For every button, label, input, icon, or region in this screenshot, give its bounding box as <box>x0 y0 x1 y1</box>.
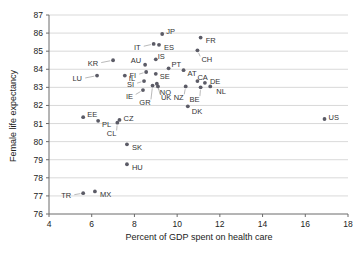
point-label: SI <box>127 80 134 89</box>
data-point: EE <box>81 110 97 119</box>
point-marker <box>323 117 327 121</box>
point-label: PT <box>172 60 182 69</box>
point-marker <box>156 85 160 89</box>
point-label: PL <box>102 120 111 129</box>
scatter-chart: Female life expectancy Percent of GDP sp… <box>0 0 363 257</box>
point-marker <box>125 162 129 166</box>
point-label: GR <box>139 98 151 107</box>
point-marker <box>196 48 200 52</box>
point-marker <box>95 74 99 78</box>
data-point: PT <box>167 60 182 70</box>
point-label: SE <box>160 72 170 81</box>
x-tick-label: 10 <box>172 219 182 229</box>
data-point: IS <box>154 52 165 61</box>
plot-area: 767778798081828384858687 4681012141618 J… <box>0 0 363 257</box>
point-label: JP <box>166 27 175 36</box>
point-marker <box>123 74 127 78</box>
point-marker <box>184 85 188 89</box>
y-tick-label: 80 <box>34 137 44 147</box>
point-marker <box>81 115 85 119</box>
point-label: UK <box>161 93 171 102</box>
x-tick-label: 16 <box>301 219 311 229</box>
x-tick-label: 12 <box>215 219 225 229</box>
point-label: KR <box>88 59 99 68</box>
point-marker <box>93 189 97 193</box>
point-label: AT <box>188 69 197 78</box>
point-marker <box>152 42 156 46</box>
point-label: CL <box>107 129 117 138</box>
point-marker <box>157 43 161 47</box>
point-label: HU <box>132 163 143 172</box>
data-point: AT <box>182 68 197 78</box>
x-tick-label: 18 <box>343 219 353 229</box>
data-point: KR <box>88 58 115 68</box>
y-tick-label: 78 <box>34 173 44 183</box>
y-tick-label: 82 <box>34 100 44 110</box>
x-axis-ticks: 4681012141618 <box>47 214 353 229</box>
y-tick-label: 76 <box>34 209 44 219</box>
data-point: CH <box>196 48 213 64</box>
x-tick-label: 8 <box>132 219 137 229</box>
data-point: MX <box>93 189 111 198</box>
y-tick-label: 77 <box>34 191 44 201</box>
gridlines <box>49 15 348 196</box>
point-label: DK <box>192 107 202 116</box>
point-label: IS <box>158 52 165 61</box>
point-label: LU <box>72 74 82 83</box>
point-marker <box>151 84 155 88</box>
point-label: MX <box>100 190 111 199</box>
point-label: NL <box>216 87 226 96</box>
point-marker <box>111 58 115 62</box>
y-tick-label: 85 <box>34 46 44 56</box>
data-points: JPFRITESCHISKRAUPTATFISELUILCADESINONLNZ… <box>61 27 339 200</box>
y-tick-label: 79 <box>34 155 44 165</box>
point-marker <box>142 79 146 83</box>
data-point: FR <box>199 36 216 46</box>
point-marker <box>167 66 171 70</box>
data-point: HU <box>125 162 143 172</box>
data-point: LU <box>72 74 98 84</box>
y-axis-ticks: 767778798081828384858687 <box>34 10 49 219</box>
point-label: NZ <box>174 93 184 102</box>
point-label: BE <box>190 95 200 104</box>
y-tick-label: 83 <box>34 82 44 92</box>
data-point: JP <box>160 27 175 36</box>
point-label: EE <box>87 110 97 119</box>
point-label: IE <box>126 92 133 101</box>
x-tick-label: 4 <box>47 219 52 229</box>
x-tick-label: 6 <box>89 219 94 229</box>
point-marker <box>125 142 129 146</box>
data-point: IT <box>134 42 156 52</box>
point-label: CZ <box>123 114 133 123</box>
point-marker <box>182 68 186 72</box>
data-point: SK <box>125 142 142 151</box>
data-point: US <box>323 113 339 122</box>
data-point: BE <box>190 85 203 104</box>
point-marker <box>154 72 158 76</box>
data-point: DK <box>186 104 202 116</box>
point-label: ES <box>164 43 174 52</box>
point-marker <box>203 81 207 85</box>
point-marker <box>160 32 164 36</box>
data-point: PL <box>96 119 111 130</box>
y-tick-label: 87 <box>34 10 44 20</box>
point-marker <box>143 63 147 67</box>
point-marker <box>199 85 203 89</box>
point-marker <box>141 88 145 92</box>
point-label: AU <box>131 56 141 65</box>
point-marker <box>115 121 119 125</box>
point-label: TR <box>61 191 72 200</box>
y-tick-label: 86 <box>34 28 44 38</box>
point-label: CH <box>201 55 212 64</box>
point-label: SK <box>132 143 142 152</box>
x-tick-label: 14 <box>258 219 268 229</box>
data-point: AU <box>131 56 147 66</box>
y-tick-label: 81 <box>34 119 44 129</box>
data-point: CZ <box>118 114 134 123</box>
point-label: CA <box>197 73 207 82</box>
point-marker <box>96 119 100 123</box>
data-point: TR <box>61 191 85 200</box>
point-marker <box>81 191 85 195</box>
point-label: IT <box>134 43 141 52</box>
y-tick-label: 84 <box>34 64 44 74</box>
